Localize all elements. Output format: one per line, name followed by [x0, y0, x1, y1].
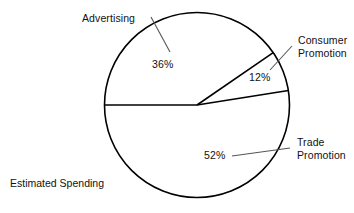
label-consumer-promotion-line1: Consumer	[298, 34, 347, 46]
label-trade-promotion-line1: Trade	[297, 136, 325, 148]
pie-chart-figure: Advertising 36% Consumer Promotion 12% T…	[0, 0, 354, 213]
caption-block: Estimated Spending in Total for 1989: C$…	[10, 148, 104, 213]
label-trade-promotion-line2: Promotion	[297, 149, 346, 161]
value-advertising: 36%	[152, 58, 173, 70]
value-consumer-promotion: 12%	[249, 71, 270, 83]
label-advertising: Advertising	[82, 12, 135, 24]
label-consumer-promotion-line2: Promotion	[298, 47, 347, 59]
value-trade-promotion: 52%	[204, 149, 225, 161]
caption-line-1: Estimated Spending	[10, 176, 104, 190]
